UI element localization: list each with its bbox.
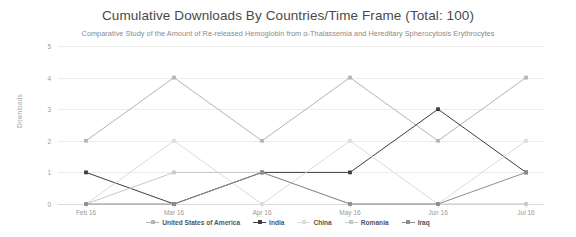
legend-label: Romania [361, 219, 389, 226]
legend-item-united-states-of-america[interactable]: United States of America [146, 218, 240, 226]
legend-marker-icon [345, 218, 358, 226]
data-point [172, 171, 176, 175]
data-point [524, 139, 528, 143]
legend-label: India [269, 219, 284, 226]
chart-legend: United States of AmericaIndiaChinaRomani… [0, 218, 576, 226]
data-point [84, 139, 88, 143]
legend-label: United States of America [162, 219, 240, 226]
legend-marker-icon [297, 218, 310, 226]
data-point [172, 76, 176, 80]
data-point [524, 202, 528, 206]
data-point [524, 76, 528, 80]
legend-item-romania[interactable]: Romania [345, 218, 389, 226]
chart-container: Cumulative Downloads By Countries/Time F… [0, 0, 576, 237]
plot-area: 012345 Feb 16Mar 16Apr 16May 16Jun 16Jul… [58, 46, 544, 204]
data-point [524, 171, 528, 175]
legend-item-iraq[interactable]: Iraq [402, 218, 430, 226]
x-tick-label: May 16 [339, 209, 360, 216]
series-united-states-of-america [84, 76, 528, 143]
data-point [436, 202, 440, 206]
legend-label: Iraq [418, 219, 430, 226]
series-line [86, 78, 526, 141]
data-point [260, 202, 264, 206]
data-point [84, 202, 88, 206]
x-tick-label: Feb 16 [76, 209, 96, 216]
data-point [172, 202, 176, 206]
data-point [260, 139, 264, 143]
chart-subtitle: Comparative Study of the Amount of Re-re… [0, 29, 576, 38]
legend-marker-icon [253, 218, 266, 226]
x-tick-label: Jul 16 [517, 209, 534, 216]
data-point [348, 171, 352, 175]
legend-marker-icon [146, 218, 159, 226]
legend-marker-icon [402, 218, 415, 226]
data-point [436, 139, 440, 143]
series-india [84, 107, 528, 206]
x-tick-label: Apr 16 [252, 209, 271, 216]
data-point [348, 139, 352, 143]
y-tick-label: 5 [47, 43, 51, 50]
data-point [84, 171, 88, 175]
y-tick-label: 4 [47, 74, 51, 81]
y-tick-label: 2 [47, 137, 51, 144]
legend-item-india[interactable]: India [253, 218, 284, 226]
series-iraq [84, 171, 528, 206]
legend-item-china[interactable]: China [297, 218, 331, 226]
data-point [348, 76, 352, 80]
series-lines [58, 46, 544, 204]
data-point [260, 171, 264, 175]
x-tick-label: Jun 16 [428, 209, 448, 216]
data-point [172, 139, 176, 143]
series-line [86, 141, 526, 204]
data-point [436, 107, 440, 111]
chart-title: Cumulative Downloads By Countries/Time F… [0, 8, 576, 23]
y-tick-label: 1 [47, 169, 51, 176]
x-tick-label: Mar 16 [164, 209, 184, 216]
legend-label: China [313, 219, 331, 226]
y-tick-label: 3 [47, 106, 51, 113]
y-axis-label: Downloads [16, 94, 23, 128]
y-tick-label: 0 [47, 201, 51, 208]
data-point [348, 202, 352, 206]
